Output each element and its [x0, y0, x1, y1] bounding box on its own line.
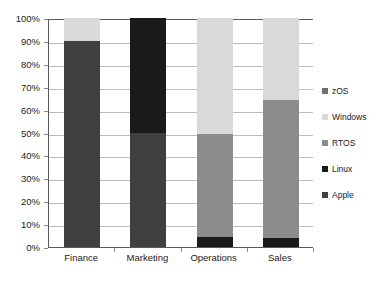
y-axis-tick-label: 100% [16, 14, 40, 24]
legend-item-apple[interactable]: Apple [322, 182, 383, 208]
x-axis-tick-label: Marketing [127, 252, 169, 263]
x-axis-tick-mark [313, 248, 314, 252]
legend-item-rtos[interactable]: RTOS [322, 130, 383, 156]
bar-segment-windows [263, 18, 299, 100]
legend-item-label: Apple [332, 190, 354, 200]
bar-segment-windows [197, 18, 233, 134]
legend-swatch-icon [322, 114, 328, 120]
chart-legend: zOSWindowsRTOSLinuxApple [322, 78, 383, 208]
plot-area [48, 19, 313, 248]
bar-stack [197, 20, 233, 247]
bar-group [263, 20, 299, 247]
bar-segment-linux [263, 238, 299, 247]
legend-item-label: Linux [332, 164, 352, 174]
y-axis-tick-label: 70% [21, 83, 40, 93]
y-axis-tick-label: 10% [21, 220, 40, 230]
x-axis-tick-mark [181, 248, 182, 252]
y-axis: 100%90%80%70%60%50%40%30%20%10%0% [0, 0, 44, 284]
x-axis-tick-label: Finance [64, 252, 98, 263]
bar-segment-apple [130, 133, 166, 248]
bar-group [197, 20, 233, 247]
bar-segment-rtos [263, 100, 299, 237]
x-axis-tick-label: Operations [190, 252, 236, 263]
bar-segment-rtos [197, 134, 233, 237]
y-axis-tick-label: 50% [21, 129, 40, 139]
stacked-bar-chart: 100%90%80%70%60%50%40%30%20%10%0% Financ… [0, 0, 383, 284]
bar-segment-linux [197, 237, 233, 247]
legend-item-zos[interactable]: zOS [322, 78, 383, 104]
bar-stack [64, 20, 100, 247]
x-axis-tick-mark [114, 248, 115, 252]
y-axis-tick-label: 60% [21, 106, 40, 116]
y-axis-tick-label: 0% [26, 243, 40, 253]
bar-segment-linux [130, 18, 166, 133]
bars-layer [49, 20, 313, 247]
legend-item-windows[interactable]: Windows [322, 104, 383, 130]
y-axis-tick-label: 20% [21, 197, 40, 207]
legend-swatch-icon [322, 192, 328, 198]
x-axis-tick-mark [247, 248, 248, 252]
y-axis-tick-label: 80% [21, 60, 40, 70]
bar-stack [263, 20, 299, 247]
bar-stack [130, 20, 166, 247]
bar-segment-apple [64, 41, 100, 247]
y-axis-tick-label: 90% [21, 37, 40, 47]
x-axis-tick-label: Sales [268, 252, 292, 263]
legend-swatch-icon [322, 88, 328, 94]
legend-swatch-icon [322, 166, 328, 172]
y-axis-tick-label: 40% [21, 151, 40, 161]
y-axis-tick-mark [44, 248, 48, 249]
bar-group [64, 20, 100, 247]
bar-group [130, 20, 166, 247]
legend-item-linux[interactable]: Linux [322, 156, 383, 182]
bar-segment-windows [64, 18, 100, 41]
legend-swatch-icon [322, 140, 328, 146]
legend-item-label: Windows [332, 112, 366, 122]
legend-item-label: RTOS [332, 138, 355, 148]
x-axis: FinanceMarketingOperationsSales [48, 252, 313, 272]
legend-item-label: zOS [332, 86, 349, 96]
y-axis-tick-label: 30% [21, 174, 40, 184]
